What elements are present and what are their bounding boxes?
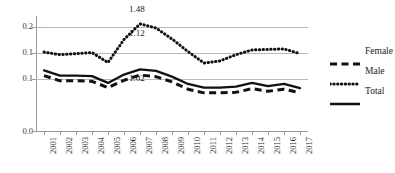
x-axis-tick-label: 2013 [240,137,250,154]
x-axis-tick-label: 2006 [128,137,138,154]
y-axis-tick-label: 0.2 [3,22,33,31]
y-axis-tick-mark [32,53,36,54]
x-axis-tick-mark [156,132,157,135]
data-label: 1.48 [129,4,145,14]
chart-figure: 0.20.10.10.0 1.481.121.02 20012002200320… [0,0,395,173]
x-axis-labels: 2001200220032004200520062007200820092010… [36,132,308,173]
x-axis-tick-label: 2017 [304,137,314,154]
data-label: 1.02 [129,73,145,83]
x-axis-tick-mark [300,132,301,135]
x-axis-tick-label: 2015 [272,137,282,154]
series-lines [36,16,308,131]
x-axis-tick-mark [204,132,205,135]
legend-swatch-solid [330,92,360,96]
legend-item[interactable]: Male [330,64,394,84]
x-axis-tick-mark [44,132,45,135]
x-axis-tick-mark [124,132,125,135]
x-axis-tick-label: 2004 [96,137,106,154]
legend-item[interactable]: Total [330,84,394,104]
x-axis-tick-label: 2001 [48,137,58,154]
x-axis-tick-mark [76,132,77,135]
plot-area: 1.481.121.02 [36,16,308,131]
y-axis-tick-mark [32,131,36,132]
legend-swatch-dotted [330,72,360,76]
chart-legend: FemaleMaleTotal [330,44,394,104]
legend-label: Male [365,66,385,76]
x-axis-tick-mark [140,132,141,135]
x-axis-tick-label: 2002 [64,137,74,154]
x-axis-tick-mark [252,132,253,135]
x-axis-tick-label: 2005 [112,137,122,154]
y-axis-labels: 0.20.10.10.0 [0,0,33,173]
x-axis-tick-mark [284,132,285,135]
y-axis-tick-mark [32,79,36,80]
y-axis-tick-mark [32,27,36,28]
x-axis-tick-mark [188,132,189,135]
legend-label: Female [365,46,393,56]
x-axis-tick-mark [172,132,173,135]
x-axis-tick-label: 2011 [208,137,218,154]
legend-label: Total [365,86,384,96]
x-axis-tick-label: 2014 [256,137,266,154]
x-axis-tick-label: 2009 [176,137,186,154]
y-axis-tick-label: 0.1 [3,48,33,57]
x-axis-tick-label: 2007 [144,137,154,154]
legend-swatch-dashed [330,52,360,56]
y-axis-tick-label: 0.0 [3,127,33,136]
y-axis-tick-label: 0.1 [3,74,33,83]
x-axis-tick-mark [236,132,237,135]
x-axis-tick-mark [92,132,93,135]
x-axis-tick-label: 2016 [288,137,298,154]
x-axis-tick-label: 2010 [192,137,202,154]
x-axis-tick-mark [108,132,109,135]
x-axis-tick-label: 2012 [224,137,234,154]
x-axis-tick-mark [220,132,221,135]
x-axis-tick-label: 2008 [160,137,170,154]
x-axis-tick-mark [60,132,61,135]
x-axis-tick-mark [268,132,269,135]
series-line-total [44,69,300,88]
legend-item[interactable]: Female [330,44,394,64]
x-axis-tick-label: 2003 [80,137,90,154]
data-label: 1.12 [129,28,145,38]
series-line-male [44,24,300,63]
